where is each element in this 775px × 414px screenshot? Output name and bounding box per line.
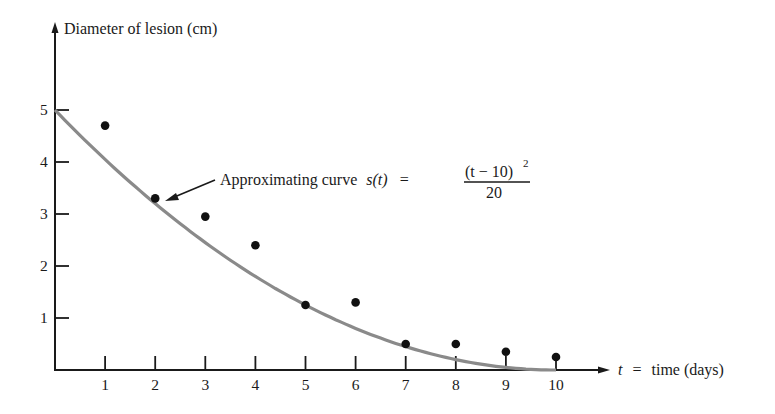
annotation-leader-line <box>172 180 215 198</box>
x-tick-label: 4 <box>252 376 260 393</box>
data-point <box>502 348 511 357</box>
data-point <box>351 298 360 307</box>
x-ticks: 12345678910 <box>101 356 564 393</box>
data-point <box>201 212 210 221</box>
x-tick-label: 2 <box>151 376 159 393</box>
annotation-function: s(t) <box>366 171 387 189</box>
data-point <box>401 340 410 349</box>
y-tick-label: 5 <box>40 101 48 118</box>
x-axis-label: t = time (days) <box>618 361 724 379</box>
formula-numerator: (t − 10) <box>465 163 513 181</box>
x-axis-variable: t <box>618 361 623 378</box>
x-tick-label: 9 <box>502 376 510 393</box>
y-axis-arrow-icon <box>52 22 59 33</box>
annotation-equals: = <box>400 171 409 188</box>
x-axis-arrow-icon <box>598 367 610 374</box>
x-tick-label: 5 <box>302 376 310 393</box>
x-axis-equals: = <box>632 361 641 378</box>
approximating-curve <box>55 110 556 370</box>
data-point <box>151 194 160 203</box>
data-point <box>101 121 110 130</box>
data-point <box>452 340 461 349</box>
annotation-prefix: Approximating curve <box>220 171 357 189</box>
lesion-diameter-chart: 12345 12345678910 Diameter of lesion (cm… <box>0 0 775 414</box>
annotation-arrow <box>165 180 215 201</box>
x-tick-label: 10 <box>548 376 564 393</box>
x-axis-text: time (days) <box>651 361 723 379</box>
data-point <box>552 353 561 362</box>
y-tick-label: 4 <box>40 153 48 170</box>
annotation-label: Approximating curve s(t) = <box>220 171 409 189</box>
formula-exponent: 2 <box>523 157 529 169</box>
x-tick-label: 3 <box>201 376 209 393</box>
x-tick-label: 6 <box>352 376 360 393</box>
x-tick-label: 1 <box>101 376 109 393</box>
y-tick-label: 3 <box>40 205 48 222</box>
x-tick-label: 8 <box>452 376 460 393</box>
formula-fraction: (t − 10) 2 20 <box>464 157 530 201</box>
annotation-arrowhead-icon <box>165 193 179 201</box>
data-point <box>301 301 310 310</box>
y-tick-label: 2 <box>40 257 48 274</box>
axes <box>52 22 611 374</box>
formula-denominator: 20 <box>486 184 502 201</box>
data-points <box>101 121 561 361</box>
data-point <box>251 241 260 250</box>
y-axis-label: Diameter of lesion (cm) <box>64 20 217 38</box>
y-tick-label: 1 <box>40 309 48 326</box>
x-tick-label: 7 <box>402 376 410 393</box>
